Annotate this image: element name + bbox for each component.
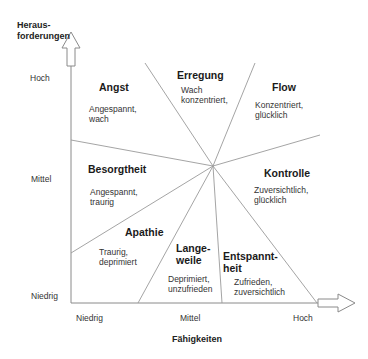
x-tick-high: Hoch	[293, 314, 313, 324]
flow-model-diagram: Heraus- forderungen Fähigkeiten Hoch Mit…	[0, 0, 368, 359]
x-axis-arrow-icon	[318, 294, 355, 312]
y-tick-high: Hoch	[30, 74, 50, 84]
zone-besorgtheit-title: Besorgtheit	[88, 163, 146, 175]
x-tick-low: Niedrig	[76, 314, 103, 324]
y-tick-low: Niedrig	[31, 292, 58, 302]
zone-angst-desc2: wach	[89, 115, 109, 125]
diagram-lines	[0, 0, 368, 359]
zone-flow-desc2: glücklich	[255, 111, 288, 121]
x-axis-title: Fähigkeiten	[172, 334, 222, 344]
y-tick-mid: Mittel	[31, 175, 51, 185]
zone-erregung-title: Erregung	[177, 69, 224, 81]
zone-langeweile-desc2: unzufrieden	[168, 285, 212, 295]
zone-entspanntheit-desc2: zuversichtlich	[234, 288, 285, 298]
zone-langeweile-title2: weile	[176, 254, 202, 266]
zone-langeweile-title1: Lange-	[176, 242, 210, 254]
zone-angst-title: Angst	[99, 81, 129, 93]
zone-kontrolle-title: Kontrolle	[264, 167, 310, 179]
zone-entspanntheit-title2: heit	[223, 262, 242, 274]
zone-kontrolle-desc2: glücklich	[254, 196, 287, 206]
zone-flow-title: Flow	[272, 81, 296, 93]
zone-erregung-desc2: konzentriert,	[181, 96, 228, 106]
x-tick-mid: Mittel	[180, 314, 200, 324]
zone-entspanntheit-title1: Entspannt-	[223, 250, 278, 262]
zone-apathie-desc2: deprimiert	[99, 258, 137, 268]
y-axis-title-line2: forderungen	[17, 31, 70, 41]
y-axis-title-line1: Heraus-	[17, 20, 51, 30]
zone-apathie-title: Apathie	[125, 226, 164, 238]
zone-besorgtheit-desc2: traurig	[90, 198, 114, 208]
